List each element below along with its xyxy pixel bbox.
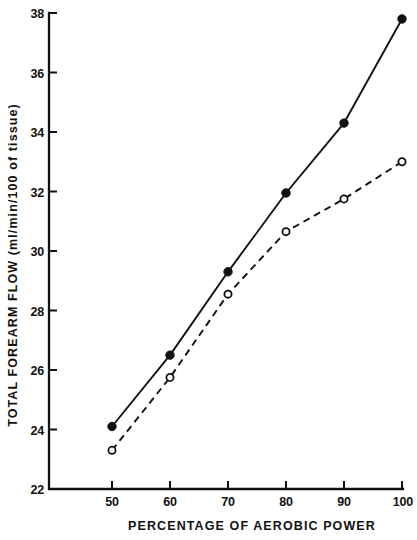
data-point [166, 351, 174, 359]
y-tick-label: 32 [30, 186, 44, 200]
data-point [224, 268, 232, 276]
data-point [166, 374, 173, 381]
x-tick-label: 60 [163, 495, 177, 509]
x-tick-labels: 50 60 70 80 90 100 [105, 495, 413, 509]
y-tick-label: 38 [30, 7, 44, 21]
y-tick-labels: 38 36 34 32 30 28 26 24 22 [30, 7, 44, 497]
series-line-0 [112, 19, 402, 427]
data-point [398, 158, 405, 165]
chart-figure: 38 36 34 32 30 28 26 24 22 50 60 70 80 9… [0, 0, 417, 540]
x-tick-label: 90 [337, 495, 351, 509]
data-point [282, 189, 290, 197]
x-tick-label: 50 [105, 495, 119, 509]
x-tick-label: 70 [221, 495, 235, 509]
data-point [340, 119, 348, 127]
y-tick-label: 26 [30, 364, 44, 378]
y-tick-label: 22 [30, 483, 44, 497]
y-axis-title: TOTAL FOREARM FLOW (ml/min/100 of tissue… [6, 103, 20, 427]
y-tick-label: 28 [30, 305, 44, 319]
data-point [108, 422, 116, 430]
y-tick-label: 24 [30, 424, 44, 438]
data-point [108, 447, 115, 454]
axis-lines [49, 13, 403, 489]
y-tick-label: 34 [30, 126, 44, 140]
y-tick-marks [49, 13, 57, 489]
line-chart-canvas: 38 36 34 32 30 28 26 24 22 50 60 70 80 9… [0, 0, 417, 540]
y-tick-label: 30 [30, 245, 44, 259]
data-point [340, 195, 347, 202]
y-tick-label: 36 [30, 67, 44, 81]
series-layer [108, 15, 406, 454]
data-point [398, 15, 406, 23]
x-tick-label: 100 [393, 495, 414, 509]
data-point [224, 291, 231, 298]
data-point [282, 228, 289, 235]
x-tick-marks [112, 481, 402, 489]
series-line-1 [112, 162, 402, 451]
x-axis-title: PERCENTAGE OF AEROBIC POWER [128, 519, 376, 533]
x-tick-label: 80 [279, 495, 293, 509]
